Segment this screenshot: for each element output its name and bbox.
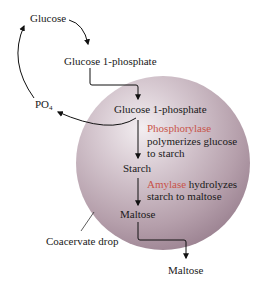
coacervate-leader-line — [81, 212, 94, 231]
label-glucose-1-phosphate-inside: Glucose 1-phosphate — [114, 103, 207, 115]
label-phosphorylase-desc-1: polymerizes glucose — [147, 135, 237, 147]
label-starch: Starch — [123, 162, 151, 174]
label-po4: PO4 — [35, 98, 53, 114]
label-amylase-desc-1: hydrolyzes — [186, 178, 237, 190]
po4-text: PO — [35, 98, 49, 110]
label-amylase: Amylase — [147, 178, 186, 190]
label-maltose-outside: Maltose — [168, 264, 203, 276]
label-glucose: Glucose — [30, 12, 66, 24]
label-maltose-inside: Maltose — [120, 208, 155, 220]
diagram-canvas: Glucose Glucose 1-phosphate PO4 Coacerva… — [0, 0, 256, 283]
arrow-glucose-to-g1p — [69, 20, 88, 44]
label-amylase-desc-2: starch to maltose — [147, 190, 222, 202]
label-phosphorylase: Phosphorylase — [147, 122, 211, 134]
label-glucose-1-phosphate-outside: Glucose 1-phosphate — [64, 55, 157, 67]
arrow-po4-to-glucose — [18, 26, 34, 98]
label-phosphorylase-desc-2: to starch — [147, 147, 185, 159]
label-amylase-line: Amylase hydrolyzes — [147, 178, 237, 190]
po4-subscript: 4 — [49, 104, 53, 112]
label-coacervate-drop: Coacervate drop — [46, 235, 118, 247]
